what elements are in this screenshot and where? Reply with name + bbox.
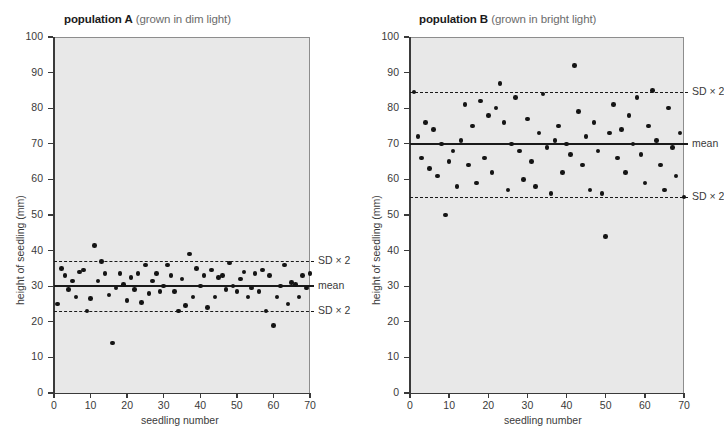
x-axis-tick-label: 20 (476, 399, 500, 411)
x-axis-tick-label: 20 (115, 399, 139, 411)
data-point (139, 300, 144, 305)
y-axis-tick (404, 250, 409, 251)
data-point (158, 289, 163, 294)
y-axis-tick (48, 214, 53, 215)
y-axis-tick-label: 70 (373, 137, 399, 149)
sd-line (410, 92, 688, 93)
sd-line (410, 197, 688, 198)
y-axis-tick-label: 40 (373, 244, 399, 256)
panel-a-title-strong: population A (64, 13, 133, 25)
x-axis-tick-label: 10 (437, 399, 461, 411)
x-axis-tick (566, 393, 567, 398)
x-axis-tick-label: 60 (261, 399, 285, 411)
x-axis-tick (605, 393, 606, 398)
x-axis-tick (309, 393, 310, 398)
data-point (66, 287, 71, 292)
data-point (121, 282, 126, 287)
data-point (478, 99, 483, 104)
data-point (580, 163, 585, 168)
data-point (81, 268, 86, 273)
data-point (525, 117, 530, 122)
panel-a-y-axis (53, 37, 55, 394)
data-point (194, 266, 199, 271)
data-point (459, 138, 464, 143)
y-axis-tick-label: 80 (17, 101, 43, 113)
y-axis-tick-label: 100 (17, 30, 43, 42)
y-axis-tick (48, 392, 53, 393)
y-axis-tick-label: 0 (373, 386, 399, 398)
data-point (187, 252, 192, 257)
x-axis-tick-label: 50 (225, 399, 249, 411)
sd-line-label: SD × 2 (318, 254, 350, 266)
panel-b-title-strong: population B (419, 13, 488, 25)
data-point (662, 188, 667, 193)
data-point (545, 145, 550, 150)
data-point (143, 263, 148, 268)
data-point (198, 284, 203, 289)
x-axis-tick (488, 393, 489, 398)
y-axis-tick (404, 357, 409, 358)
data-point (282, 263, 287, 268)
x-axis-tick (163, 393, 164, 398)
y-axis-tick-label: 70 (17, 137, 43, 149)
data-point (682, 195, 687, 200)
data-point (132, 287, 137, 292)
data-point (564, 142, 569, 147)
x-axis-tick-label: 0 (398, 399, 422, 411)
data-point (533, 184, 538, 189)
sd-line-label: SD × 2 (692, 190, 724, 202)
x-axis-tick-label: 70 (672, 399, 696, 411)
data-point (486, 113, 491, 118)
data-point (568, 152, 573, 157)
data-point (172, 289, 177, 294)
y-axis-tick-label: 10 (373, 350, 399, 362)
panel-a-title-soft: (grown in dim light) (136, 13, 231, 25)
y-axis-tick-label: 30 (373, 279, 399, 291)
data-point (238, 277, 243, 282)
data-point (300, 273, 305, 278)
y-axis-tick (404, 143, 409, 144)
data-point (235, 289, 240, 294)
data-point (635, 95, 640, 100)
y-axis-tick (404, 36, 409, 37)
panel-a-plot-area (54, 37, 310, 393)
y-axis-tick (404, 286, 409, 287)
data-point (150, 279, 155, 284)
data-point (59, 266, 64, 271)
y-axis-tick-label: 20 (373, 315, 399, 327)
y-axis-tick (48, 357, 53, 358)
panel-population-b: population B (grown in bright light) hei… (347, 0, 693, 442)
data-point (639, 152, 644, 157)
data-point (293, 282, 298, 287)
data-point (99, 259, 104, 264)
x-axis-tick-label: 70 (298, 399, 322, 411)
y-axis-tick-label: 10 (17, 350, 43, 362)
data-point (513, 95, 518, 100)
panel-a-x-axis-label: seedling number (141, 414, 219, 426)
panel-a-title: population A (grown in dim light) (64, 13, 231, 25)
y-axis-tick-label: 40 (17, 244, 43, 256)
data-point (619, 127, 624, 132)
panel-population-a: population A (grown in dim light) height… (0, 0, 346, 442)
data-point (257, 289, 262, 294)
data-point (603, 234, 608, 239)
data-point (517, 149, 522, 154)
x-axis-tick-label: 10 (79, 399, 103, 411)
mean-line-label: mean (692, 137, 718, 149)
data-point (502, 120, 507, 125)
data-point (615, 156, 620, 161)
data-point (509, 142, 514, 147)
data-point (249, 286, 254, 291)
data-point (308, 271, 313, 276)
data-point (474, 181, 479, 186)
data-point (529, 159, 534, 164)
y-axis-tick (48, 179, 53, 180)
y-axis-tick-label: 50 (373, 208, 399, 220)
data-point (154, 271, 159, 276)
data-point (423, 120, 428, 125)
x-axis-tick-label: 40 (555, 399, 579, 411)
y-axis-tick-label: 30 (17, 279, 43, 291)
data-point (553, 138, 558, 143)
data-point (209, 268, 214, 273)
